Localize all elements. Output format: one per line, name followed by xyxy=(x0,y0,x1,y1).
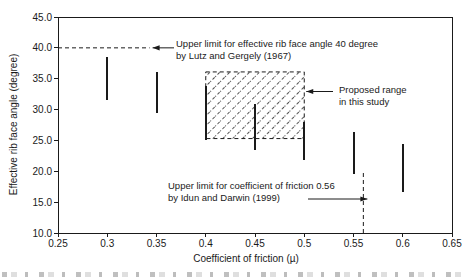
annotation-proposed-range-line1: Proposed range xyxy=(339,84,407,96)
y-tick-label: 45.0 xyxy=(33,12,53,23)
x-tick-label: 0.45 xyxy=(245,238,265,249)
x-tick-label: 0.25 xyxy=(48,238,68,249)
annotation-proposed-range-line2: in this study xyxy=(339,96,407,108)
x-tick-label: 0.65 xyxy=(442,238,462,249)
y-tick-label: 25.0 xyxy=(33,135,53,146)
annotation-friction-limit: Upper limit for coefficient of friction … xyxy=(168,180,335,203)
y-axis-title: Effective rib face angle (degree) xyxy=(8,9,19,241)
annotation-friction-limit-line1: Upper limit for coefficient of friction … xyxy=(168,180,335,192)
x-tick-label: 0.4 xyxy=(199,238,213,249)
annotation-proposed-range: Proposed range in this study xyxy=(339,84,407,107)
annotation-upper-rib-angle-limit-line1: Upper limit for effective rib face angle… xyxy=(176,38,378,50)
y-tick-label: 15.0 xyxy=(33,197,53,208)
proposed-range-arrow-head xyxy=(306,89,313,94)
y-tick-label: 40.0 xyxy=(33,42,53,53)
x-tick-label: 0.3 xyxy=(100,238,114,249)
x-tick-label: 0.55 xyxy=(344,238,364,249)
upper-angle-limit-arrow-head xyxy=(153,45,160,50)
annotation-upper-rib-angle-limit: Upper limit for effective rib face angle… xyxy=(176,38,378,61)
x-tick-label: 0.5 xyxy=(297,238,311,249)
y-tick-label: 30.0 xyxy=(33,104,53,115)
rib-face-angle-vs-friction-chart: 45.040.035.030.025.020.015.010.00.250.30… xyxy=(0,0,471,279)
x-tick-label: 0.6 xyxy=(396,238,410,249)
x-axis-title: Coefficient of friction (µ) xyxy=(36,253,456,264)
x-tick-label: 0.35 xyxy=(147,238,167,249)
y-tick-label: 10.0 xyxy=(33,228,53,239)
cropped-text-remnant xyxy=(2,272,469,277)
y-tick-label: 20.0 xyxy=(33,166,53,177)
annotation-upper-rib-angle-limit-line2: by Lutz and Gergely (1967) xyxy=(176,50,378,62)
y-tick-label: 35.0 xyxy=(33,73,53,84)
annotation-friction-limit-line2: by Idun and Darwin (1999) xyxy=(168,192,335,204)
